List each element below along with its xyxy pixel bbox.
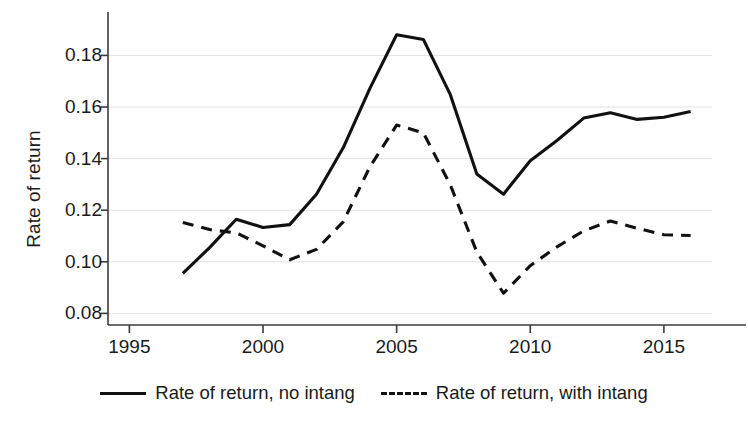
x-tick-label: 1995	[84, 336, 174, 358]
y-axis-tick-labels: 0.080.100.120.140.160.18	[44, 0, 102, 430]
y-tick-label: 0.18	[44, 45, 102, 64]
series-line-no-intang	[183, 35, 691, 274]
x-tick-label: 2015	[619, 336, 709, 358]
x-tick-label: 2005	[352, 336, 442, 358]
y-tick-label: 0.12	[44, 200, 102, 219]
legend-label-no-intang: Rate of return, no intang	[155, 382, 355, 404]
y-tick-label: 0.16	[44, 97, 102, 116]
x-tick-label: 2010	[485, 336, 575, 358]
legend-line-dashed-icon	[381, 392, 427, 395]
legend-label-with-intang: Rate of return, with intang	[436, 382, 648, 404]
legend-line-solid-icon	[100, 392, 146, 395]
chart-figure: Rate of return 0.080.100.120.140.160.18 …	[0, 0, 748, 430]
x-tick-label: 2000	[218, 336, 308, 358]
legend-item-with-intang[interactable]: Rate of return, with intang	[381, 382, 648, 404]
y-axis-title: Rate of return	[23, 89, 45, 289]
series-line-with-intang	[183, 125, 691, 293]
chart-legend: Rate of return, no intang Rate of return…	[0, 382, 748, 404]
y-tick-label: 0.14	[44, 149, 102, 168]
y-tick-label: 0.10	[44, 252, 102, 271]
plot-area	[0, 0, 748, 430]
y-tick-label: 0.08	[44, 303, 102, 322]
legend-item-no-intang[interactable]: Rate of return, no intang	[100, 382, 355, 404]
